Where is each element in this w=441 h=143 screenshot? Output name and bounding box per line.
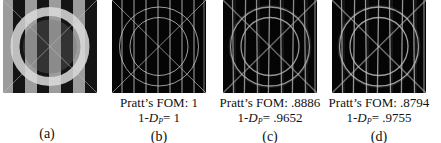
panel-label-a: (a)	[0, 126, 104, 141]
one-minus-dp-c: 1-DP= .9652	[210, 110, 330, 129]
edge-map-c-svg	[223, 0, 317, 93]
dp-symbol: D	[248, 110, 257, 125]
dp-value: = .9755	[372, 110, 412, 125]
caption-d: Pratt’s FOM: .8794 1-DP= .9755 (d)	[319, 95, 439, 143]
pratts-fom-b: Pratt’s FOM: 1	[99, 95, 219, 110]
dp-value: = .9652	[263, 110, 303, 125]
edge-map-b-svg	[112, 0, 206, 93]
dp-symbol: D	[149, 110, 158, 125]
panel-d-edge-map	[332, 0, 426, 93]
panel-label-c: (c)	[210, 129, 330, 143]
dp-prefix: 1-	[347, 110, 358, 125]
original-image-svg	[3, 0, 97, 93]
panel-label-b: (b)	[99, 129, 219, 143]
dp-value: = 1	[163, 110, 180, 125]
panel-label-d: (d)	[319, 129, 439, 143]
dp-prefix: 1-	[238, 110, 249, 125]
panel-c-edge-map	[223, 0, 317, 93]
one-minus-dp-b: 1-DP= 1	[99, 110, 219, 129]
panel-b-edge-map	[112, 0, 206, 93]
dp-symbol: D	[357, 110, 366, 125]
caption-a: (a)	[0, 126, 104, 141]
panel-a-original-image	[3, 0, 97, 93]
pratts-fom-c: Pratt’s FOM: .8886	[210, 95, 330, 110]
caption-b: Pratt’s FOM: 1 1-DP= 1 (b)	[99, 95, 219, 143]
caption-c: Pratt’s FOM: .8886 1-DP= .9652 (c)	[210, 95, 330, 143]
edge-map-d-svg	[332, 0, 426, 93]
dp-prefix: 1-	[138, 110, 149, 125]
one-minus-dp-d: 1-DP= .9755	[319, 110, 439, 129]
pratts-fom-d: Pratt’s FOM: .8794	[319, 95, 439, 110]
